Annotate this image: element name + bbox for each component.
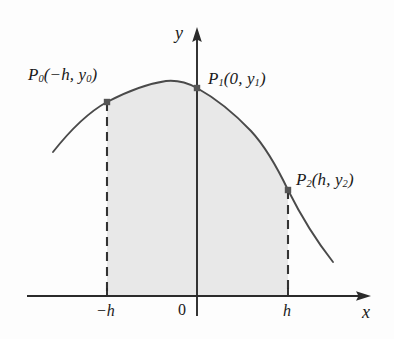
y-axis-label: y [175, 24, 183, 42]
x-axis-label: x [362, 303, 370, 321]
point-marker-p1 [194, 85, 200, 91]
point-label-p2: P2(h, y2) [296, 171, 354, 190]
point-marker-p0 [104, 99, 110, 105]
x-axis-tick-label-neg-h: −h [96, 303, 115, 319]
point-label-p0: P0(−h, y0) [28, 66, 97, 85]
point-label-p1: P1(0, y1) [208, 70, 266, 89]
x-axis-tick-label-origin: 0 [178, 302, 186, 318]
x-axis-tick-label-h: h [283, 303, 291, 319]
figure-container: P0(−h, y0) P1(0, y1) P2(h, y2) y x −h 0 … [0, 0, 394, 339]
point-marker-p2 [285, 187, 291, 193]
